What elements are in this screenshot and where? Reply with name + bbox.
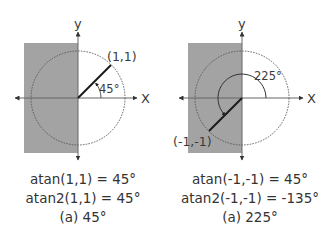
axis-y-label: y bbox=[238, 16, 246, 31]
axis-y-label: y bbox=[74, 16, 82, 31]
axis-x-label: X bbox=[141, 91, 150, 106]
caption-subfigure: (a) 45° bbox=[13, 208, 153, 227]
left-caption: atan(1,1) = 45° atan2(1,1) = 45° (a) 45° bbox=[13, 170, 153, 227]
caption-subfigure: (a) 225° bbox=[170, 208, 330, 227]
angle-label: 45° bbox=[99, 82, 119, 96]
angle-label: 225° bbox=[254, 69, 282, 83]
right-caption: atan(-1,-1) = 45° atan2(-1,-1) = -135° (… bbox=[170, 170, 330, 227]
left-panel: y X (1,1) 45° bbox=[15, 16, 150, 160]
atan-comparison-diagram: y X (1,1) 45° y X (-1,-1) 225° bbox=[0, 0, 333, 170]
point-label: (1,1) bbox=[107, 49, 137, 64]
caption-atan: atan(1,1) = 45° bbox=[13, 170, 153, 189]
caption-atan2: atan2(-1,-1) = -135° bbox=[170, 189, 330, 208]
right-panel: y X (-1,-1) 225° bbox=[173, 16, 316, 160]
caption-atan: atan(-1,-1) = 45° bbox=[170, 170, 330, 189]
axis-x-label: X bbox=[307, 91, 316, 106]
caption-atan2: atan2(1,1) = 45° bbox=[13, 189, 153, 208]
point-label: (-1,-1) bbox=[173, 134, 212, 149]
